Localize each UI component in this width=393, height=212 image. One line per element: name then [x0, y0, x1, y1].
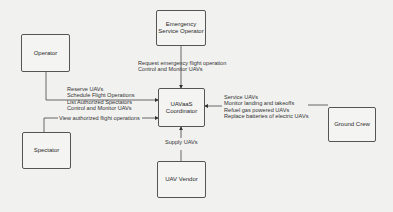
operator-edge-label: Reserve UAVs Schedule Flight Operations … — [67, 86, 134, 112]
spectator-node: Spectator — [22, 132, 71, 169]
edge-label-line: Control and Monitor UAVs — [67, 105, 134, 111]
operator-label: Operator — [34, 50, 58, 57]
emergency-operator-node: Emergency Service Operator — [156, 10, 206, 46]
spectator-label: Spectator — [34, 147, 60, 154]
emergency-operator-label: Emergency Service Operator — [157, 21, 205, 35]
ground-crew-label: Ground Crew — [334, 121, 370, 128]
spectator-edge-label: View authorized flight operations — [59, 115, 140, 121]
edge-label-line: View authorized flight operations — [59, 115, 140, 121]
edge-label-line: Replace batteries of electric UAVs — [224, 113, 308, 119]
edge-label-line: Schedule Flight Operations — [67, 92, 134, 98]
emergency-edge-label: Request emergency flight operation Contr… — [138, 60, 226, 73]
operator-node: Operator — [21, 34, 70, 72]
uav-vendor-label: UAV Vendor — [165, 176, 198, 183]
ground-crew-edge-label: Service UAVs Monitor landing and takeoff… — [224, 94, 308, 120]
edge-label-line: Supply UAVs — [165, 139, 198, 145]
uav-vendor-node: UAV Vendor — [157, 161, 206, 198]
coordinator-node: UAVaaS Coordinator — [158, 88, 205, 127]
ground-crew-node: Ground Crew — [328, 107, 376, 142]
coordinator-label: UAVaaS Coordinator — [159, 101, 204, 115]
vendor-edge-label: Supply UAVs — [165, 139, 198, 145]
edge-label-line: Control and Monitor UAVs — [138, 66, 226, 72]
